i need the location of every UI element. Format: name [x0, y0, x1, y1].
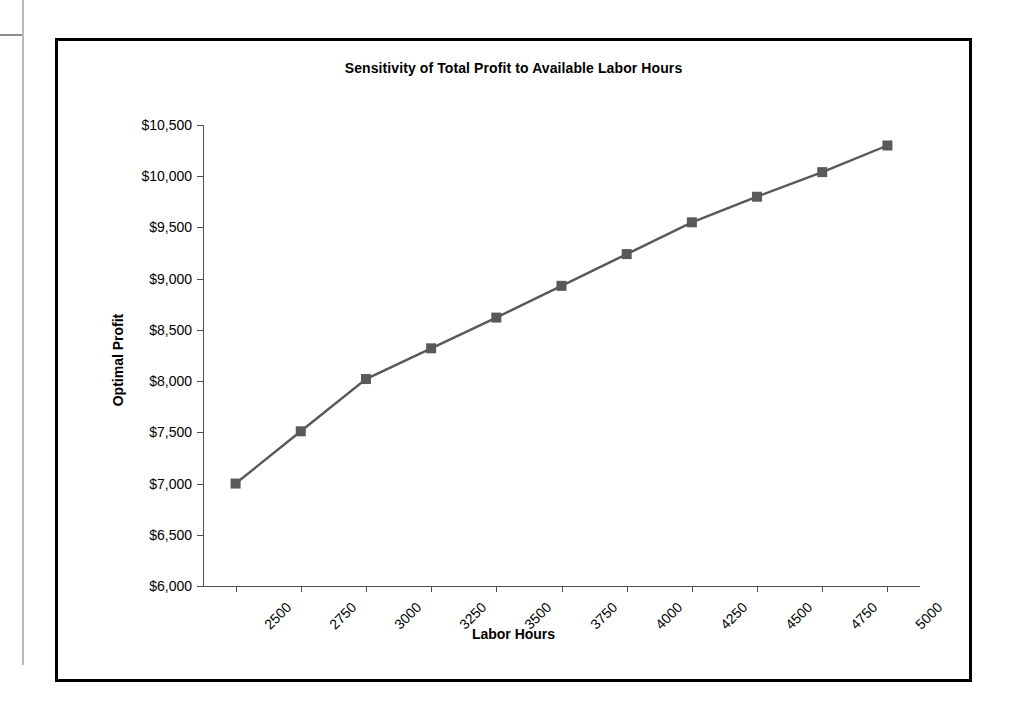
data-point-marker [231, 479, 241, 489]
y-tick-label: $6,500 [149, 527, 192, 543]
data-point-marker [752, 192, 762, 202]
x-tick [562, 586, 563, 592]
y-axis-title: Optimal Profit [110, 314, 126, 407]
data-point-marker [882, 140, 892, 150]
y-tick-label: $8,500 [149, 322, 192, 338]
x-tick [366, 586, 367, 592]
x-tick [496, 586, 497, 592]
chart-frame: Sensitivity of Total Profit to Available… [55, 38, 972, 682]
data-point-marker [687, 217, 697, 227]
x-axis-title: Labor Hours [58, 626, 969, 642]
x-tick [431, 586, 432, 592]
line-series [203, 125, 920, 586]
x-tick [692, 586, 693, 592]
data-point-marker [361, 374, 371, 384]
plot-area: $6,000$6,500$7,000$7,500$8,000$8,500$9,0… [203, 125, 920, 586]
series-line [236, 145, 888, 483]
data-point-marker [817, 167, 827, 177]
y-tick-label: $7,000 [149, 476, 192, 492]
data-point-marker [557, 281, 567, 291]
y-tick [197, 586, 203, 587]
y-tick-label: $10,500 [141, 117, 192, 133]
x-tick [301, 586, 302, 592]
x-tick [236, 586, 237, 592]
data-point-marker [622, 249, 632, 259]
y-tick-label: $10,000 [141, 168, 192, 184]
scan-edge-line [22, 0, 24, 665]
data-point-marker [426, 343, 436, 353]
y-tick-label: $7,500 [149, 424, 192, 440]
y-tick-label: $8,000 [149, 373, 192, 389]
y-tick-label: $9,000 [149, 271, 192, 287]
x-tick [627, 586, 628, 592]
x-tick [757, 586, 758, 592]
y-tick-label: $6,000 [149, 578, 192, 594]
x-tick [822, 586, 823, 592]
y-tick-label: $9,500 [149, 219, 192, 235]
x-tick [887, 586, 888, 592]
chart-title: Sensitivity of Total Profit to Available… [58, 60, 969, 76]
data-point-marker [491, 313, 501, 323]
scan-edge-mark [0, 34, 22, 36]
data-point-marker [296, 426, 306, 436]
